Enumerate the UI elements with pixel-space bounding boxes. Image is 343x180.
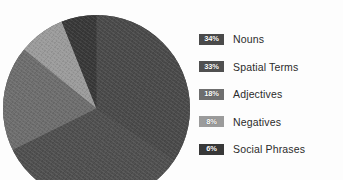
legend-label-nouns: Nouns xyxy=(233,33,264,45)
legend-swatch-adjectives: 18% xyxy=(199,89,224,100)
legend-swatch-spatial-terms: 33% xyxy=(199,61,224,72)
legend-label-adjectives: Adjectives xyxy=(233,88,282,100)
legend-item-negatives[interactable]: 8% Negatives xyxy=(199,116,341,128)
legend-label-social-phrases: Social Phrases xyxy=(233,143,305,155)
legend-swatch-social-phrases: 6% xyxy=(199,144,224,155)
pie-chart-plot-area xyxy=(2,14,192,180)
legend-item-adjectives[interactable]: 18% Adjectives xyxy=(199,88,341,100)
legend-label-negatives: Negatives xyxy=(233,116,281,128)
legend-label-spatial-terms: Spatial Terms xyxy=(233,61,298,73)
legend-item-nouns[interactable]: 34% Nouns xyxy=(199,33,341,45)
pie-chart xyxy=(3,15,190,180)
legend-item-spatial-terms[interactable]: 33% Spatial Terms xyxy=(199,61,341,73)
legend: 34% Nouns 33% Spatial Terms 18% Adjectiv… xyxy=(199,33,341,171)
legend-swatch-negatives: 8% xyxy=(199,116,224,127)
legend-item-social-phrases[interactable]: 6% Social Phrases xyxy=(199,143,341,155)
pie-chart-figure: 34% Nouns 33% Spatial Terms 18% Adjectiv… xyxy=(0,0,343,180)
figure-caption xyxy=(4,0,174,5)
legend-swatch-nouns: 34% xyxy=(199,34,224,45)
